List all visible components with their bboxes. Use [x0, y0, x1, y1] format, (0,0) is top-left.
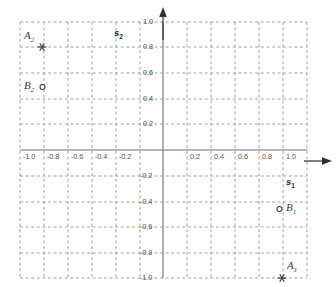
point-label-b2: B2 — [24, 79, 34, 94]
x-tick-label: -0.8 — [47, 152, 59, 161]
y-tick-label: 0.4 — [143, 94, 153, 103]
y-tick-label: -0.2 — [140, 171, 152, 180]
x-tick-label: -0.4 — [95, 152, 107, 161]
y-tick-label: 0.2 — [143, 119, 153, 128]
y-axis-name-label: s2 — [114, 27, 123, 40]
x-tick-label: 0.2 — [190, 152, 200, 161]
point-label-a1: A1 — [287, 259, 297, 274]
y-tick-label: 0.6 — [143, 68, 153, 77]
marker-b2 — [40, 85, 45, 90]
plot-background — [0, 0, 336, 287]
marker-b1 — [277, 207, 282, 212]
y-tick-label: -0.8 — [140, 248, 152, 257]
x-tick-label: 0.4 — [214, 152, 224, 161]
x-tick-label: -0.6 — [71, 152, 83, 161]
x-tick-label: -1.0 — [23, 152, 35, 161]
x-tick-label: 0.6 — [238, 152, 248, 161]
scatter-plot-figure: -1.0 -0.8 -0.6 -0.4 -0.2 0.2 0.4 0.6 0.8… — [0, 0, 336, 287]
point-label-a2: A2 — [24, 29, 34, 44]
y-tick-label: 1.0 — [143, 17, 153, 26]
plot-canvas — [0, 0, 336, 287]
y-tick-label: 0.8 — [143, 42, 153, 51]
y-tick-label: -0.4 — [140, 197, 152, 206]
point-label-b1: B1 — [286, 201, 296, 216]
x-axis-name-label: s1 — [286, 176, 295, 189]
y-tick-label: -1.0 — [140, 273, 152, 282]
x-tick-label: -0.2 — [119, 152, 131, 161]
x-tick-label: 1.0 — [286, 152, 296, 161]
x-tick-label: 0.8 — [262, 152, 272, 161]
y-tick-label: -0.6 — [140, 222, 152, 231]
